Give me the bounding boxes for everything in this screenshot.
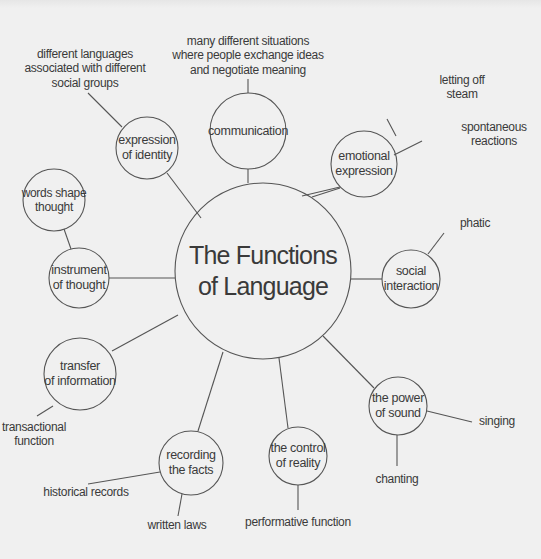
leaf-label-historical-records: historical records xyxy=(43,485,128,499)
leaf-label-transactional-function: transactional function xyxy=(2,420,66,449)
leaf-label-different-languages: different languages associated with diff… xyxy=(24,47,145,90)
leaf-label-words-shape-thought: words shape thought xyxy=(22,186,87,215)
node-label-expression-of-identity: expression of identity xyxy=(118,133,175,163)
spoke-control-of-reality xyxy=(279,358,288,428)
leaf-label-spontaneous-reactions: spontaneous reactions xyxy=(461,120,526,149)
mind-map: The Functions of Language communication … xyxy=(0,0,541,559)
leaf-line-different-languages xyxy=(88,93,122,127)
spoke-expression-of-identity xyxy=(167,173,201,218)
leaf-line-singing xyxy=(427,411,472,422)
leaf-label-chanting: chanting xyxy=(376,472,419,486)
spoke-transfer-of-information xyxy=(112,315,178,351)
node-label-control-of-reality: the control of reality xyxy=(270,441,325,471)
leaf-line-letting-off-steam xyxy=(387,119,396,136)
leaf-line-phatic xyxy=(428,233,444,254)
leaf-line-spontaneous-reactions xyxy=(394,141,422,155)
leaf-label-singing: singing xyxy=(479,414,515,428)
spoke-recording-facts xyxy=(198,352,223,431)
leaf-label-letting-off-steam: letting off steam xyxy=(423,73,502,102)
node-label-emotional-expression: emotional expression xyxy=(335,149,392,179)
leaf-line-words-shape-thought xyxy=(64,229,71,249)
leaf-line-historical-records xyxy=(88,472,160,484)
node-label-power-of-sound: the power of sound xyxy=(372,391,424,421)
node-label-recording-facts: recording the facts xyxy=(166,448,215,478)
leaf-label-phatic: phatic xyxy=(460,216,490,230)
node-label-instrument-of-thought: instrument of thought xyxy=(51,263,106,293)
leaf-label-performative-function: performative function xyxy=(245,515,351,529)
leaf-line-written-laws xyxy=(178,494,182,516)
leaf-line-transactional-function xyxy=(37,406,53,416)
node-label-communication: communication xyxy=(208,124,288,139)
node-label-social-interaction: social interaction xyxy=(384,264,438,294)
center-topic-label: The Functions of Language xyxy=(189,240,337,303)
leaf-label-written-laws: written laws xyxy=(147,518,206,532)
node-label-transfer-of-information: transfer of information xyxy=(44,359,116,389)
leaf-label-many-different-situations: many different situations where people e… xyxy=(172,34,323,77)
spoke-power-of-sound xyxy=(323,336,374,388)
